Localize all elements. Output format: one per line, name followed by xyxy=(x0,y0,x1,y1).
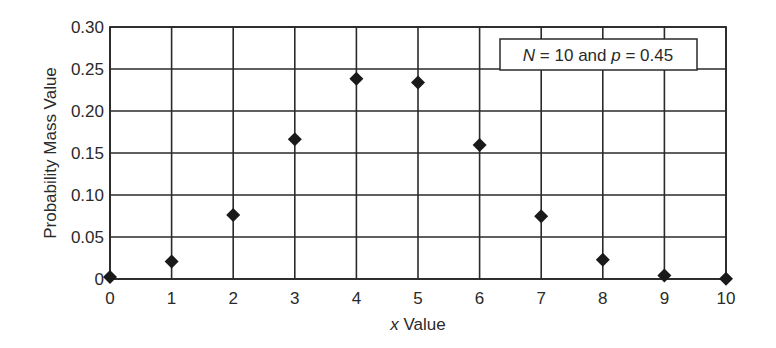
data-point-diamond xyxy=(226,208,240,222)
x-tick-label: 2 xyxy=(228,289,237,308)
data-point-diamond xyxy=(165,255,179,269)
y-tick-label: 0.10 xyxy=(71,186,104,205)
legend-box: N = 10 and p = 0.45 xyxy=(500,39,697,70)
data-point-diamond xyxy=(719,272,733,286)
x-tick-label: 7 xyxy=(536,289,545,308)
y-tick-label: 0.20 xyxy=(71,102,104,121)
y-tick-label: 0 xyxy=(95,270,104,289)
data-point-diamond xyxy=(534,209,548,223)
x-axis-ticks: 012345678910 xyxy=(105,289,735,308)
x-tick-label: 3 xyxy=(290,289,299,308)
x-tick-label: 4 xyxy=(352,289,361,308)
y-axis-label: Probability Mass Value xyxy=(41,67,60,239)
data-point-diamond xyxy=(103,270,117,284)
y-axis-ticks: 00.050.100.150.200.250.30 xyxy=(71,18,104,289)
x-tick-label: 8 xyxy=(598,289,607,308)
y-tick-label: 0.30 xyxy=(71,18,104,37)
x-tick-label: 0 xyxy=(105,289,114,308)
data-point-diamond xyxy=(349,72,363,86)
data-point-diamond xyxy=(473,138,487,152)
y-tick-label: 0.15 xyxy=(71,144,104,163)
x-tick-label: 5 xyxy=(413,289,422,308)
data-point-diamond xyxy=(411,75,425,89)
y-tick-label: 0.05 xyxy=(71,228,104,247)
y-tick-label: 0.25 xyxy=(71,60,104,79)
x-tick-label: 1 xyxy=(167,289,176,308)
x-tick-label: 9 xyxy=(660,289,669,308)
pmf-chart: 00.050.100.150.200.250.30 012345678910 N… xyxy=(0,0,776,348)
x-tick-label: 6 xyxy=(475,289,484,308)
legend-label: N = 10 and p = 0.45 xyxy=(523,46,673,65)
x-axis-label: x Value xyxy=(389,315,445,334)
x-tick-label: 10 xyxy=(717,289,736,308)
data-point-diamond xyxy=(657,268,671,282)
data-point-diamond xyxy=(288,132,302,146)
data-point-diamond xyxy=(596,253,610,267)
